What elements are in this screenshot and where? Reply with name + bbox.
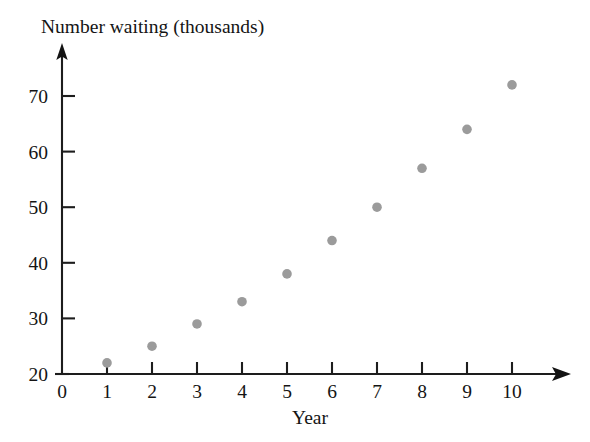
plot-background [0, 0, 590, 442]
chart-title: Number waiting (thousands) [41, 16, 264, 38]
x-axis-tick-label: 10 [502, 381, 522, 402]
data-point [507, 80, 517, 90]
data-point [147, 341, 157, 351]
data-point [372, 202, 382, 212]
data-point [102, 358, 112, 368]
y-axis-tick-label: 20 [29, 364, 49, 385]
x-axis-tick-label: 8 [417, 381, 427, 402]
x-axis-tick-label: 3 [192, 381, 202, 402]
x-axis-tick-label: 4 [237, 381, 247, 402]
data-point [417, 163, 427, 173]
y-axis-tick-label: 70 [29, 86, 49, 107]
x-axis-title: Year [292, 407, 328, 428]
chart-figure: Number waiting (thousands) 203040506070 … [0, 0, 590, 442]
x-axis-tick-label: 0 [57, 381, 67, 402]
x-axis-tick-label: 2 [147, 381, 157, 402]
y-axis-tick-label: 60 [29, 142, 49, 163]
x-axis-tick-label: 9 [462, 381, 472, 402]
data-point [327, 236, 337, 246]
y-axis-tick-label: 40 [29, 253, 49, 274]
x-axis-tick-label: 5 [282, 381, 292, 402]
x-axis-tick-label: 7 [372, 381, 382, 402]
y-axis-tick-label: 30 [29, 308, 49, 329]
y-axis-tick-label: 50 [29, 197, 49, 218]
data-point [462, 125, 472, 135]
data-point [282, 269, 292, 279]
x-axis-tick-label: 6 [327, 381, 337, 402]
data-point [192, 319, 202, 329]
scatter-plot: Number waiting (thousands) 203040506070 … [0, 0, 590, 442]
x-axis-tick-label: 1 [102, 381, 112, 402]
data-point [237, 297, 247, 307]
